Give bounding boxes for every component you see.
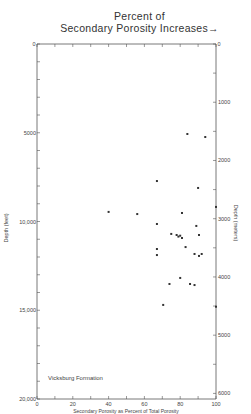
data-point bbox=[194, 253, 196, 255]
data-point bbox=[156, 254, 158, 256]
x-tick-label: 80 bbox=[177, 401, 183, 407]
data-point bbox=[168, 283, 170, 285]
data-point bbox=[181, 212, 183, 214]
data-point bbox=[186, 133, 188, 135]
y-right-tick-label: 5000 bbox=[218, 332, 230, 338]
data-point bbox=[194, 284, 196, 286]
data-point bbox=[156, 180, 158, 182]
data-point bbox=[197, 187, 199, 189]
formation-annotation: Vicksburg Formation bbox=[48, 375, 103, 381]
scatter-chart: 00020406080100500010,00015,00020,0001000… bbox=[0, 0, 251, 414]
data-point bbox=[215, 206, 217, 208]
data-point bbox=[204, 136, 206, 138]
data-point bbox=[215, 306, 217, 308]
y-right-tick-label: 3000 bbox=[218, 216, 230, 222]
data-points bbox=[108, 133, 217, 308]
y-axis-label-feet: Depth (feet) bbox=[3, 213, 9, 242]
y-right-tick-label: 4000 bbox=[218, 274, 230, 280]
x-tick-label: 100 bbox=[211, 401, 220, 407]
data-point bbox=[181, 237, 183, 239]
data-point bbox=[179, 277, 181, 279]
y-left-tick-label: 5000 bbox=[24, 130, 36, 136]
top-axis-end-label: 0 bbox=[217, 41, 220, 47]
x-axis-label: Secondary Porosity as Percent of Total P… bbox=[73, 408, 179, 414]
x-tick-label: 40 bbox=[106, 401, 112, 407]
y-right-tick-label: 2000 bbox=[218, 157, 230, 163]
data-point bbox=[185, 246, 187, 248]
y-axis-label-meters: Depth (meters) bbox=[233, 205, 239, 242]
data-point bbox=[198, 234, 200, 236]
x-tick-label: 20 bbox=[70, 401, 76, 407]
data-point bbox=[156, 223, 158, 225]
y-left-tick-label: 20,000 bbox=[19, 396, 36, 402]
data-point bbox=[162, 304, 164, 306]
data-point bbox=[108, 211, 110, 213]
data-point bbox=[195, 225, 197, 227]
data-point bbox=[179, 235, 181, 237]
y-right-tick-label: 6000 bbox=[218, 390, 230, 396]
data-point bbox=[136, 213, 138, 215]
axes: 00020406080100500010,00015,00020,0001000… bbox=[19, 41, 230, 407]
y-left-tick-label: 10,000 bbox=[19, 219, 36, 225]
y-left-tick-label: 15,000 bbox=[19, 307, 36, 313]
data-point bbox=[176, 234, 178, 236]
x-tick-label: 60 bbox=[141, 401, 147, 407]
top-axis-end-label: 0 bbox=[32, 41, 35, 47]
data-point bbox=[189, 283, 191, 285]
data-point bbox=[198, 255, 200, 257]
data-point bbox=[177, 236, 179, 238]
data-point bbox=[201, 253, 203, 255]
data-point bbox=[170, 233, 172, 235]
data-point bbox=[156, 248, 158, 250]
y-right-tick-label: 1000 bbox=[218, 99, 230, 105]
